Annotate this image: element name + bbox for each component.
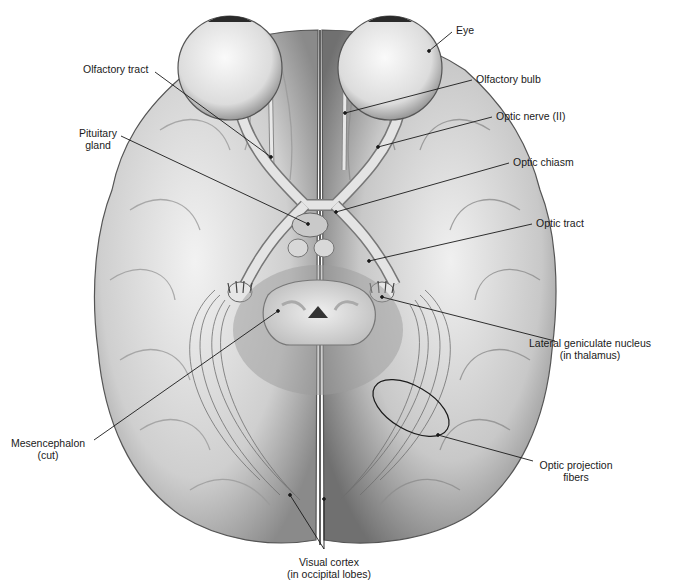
label-optic-chiasm: Optic chiasm — [513, 156, 574, 168]
label-eye: Eye — [456, 24, 474, 36]
leader-dot-olfactory_bulb — [344, 112, 347, 115]
label-optic-projection-line1: Optic projection — [516, 459, 636, 471]
leader-dot-eye — [428, 50, 431, 53]
label-pituitary-line1: Pituitary — [68, 127, 128, 139]
label-lateral-geniculate: Lateral geniculate nucleus (in thalamus) — [490, 337, 684, 361]
label-lateral-geniculate-line2: (in thalamus) — [490, 349, 684, 361]
label-optic-projection-line2: fibers — [516, 471, 636, 483]
left-eye — [178, 16, 282, 120]
label-olfactory-tract: Olfactory tract — [83, 63, 148, 75]
label-lateral-geniculate-line1: Lateral geniculate nucleus — [490, 337, 684, 349]
label-mesencephalon-line1: Mesencephalon — [0, 437, 96, 449]
right-eye — [338, 16, 442, 120]
label-mesencephalon: Mesencephalon (cut) — [0, 437, 96, 461]
leader-dot-optic_tract — [368, 260, 371, 263]
leader-dot-optic_projection_line2 — [437, 434, 440, 437]
leader-dot-lateral_geniculate_line2 — [381, 296, 384, 299]
leader-dot-olfactory_tract — [270, 156, 273, 159]
label-pituitary-gland: Pituitary gland — [68, 127, 128, 151]
brain-visual-pathway-diagram — [0, 0, 684, 588]
leader-dot-pituitary_line2 — [307, 223, 310, 226]
label-optic-tract: Optic tract — [536, 217, 584, 229]
leader-dot-optic_nerve — [377, 146, 380, 149]
leader-dot-mesencephalon_line2 — [277, 310, 280, 313]
label-visual-cortex-line1: Visual cortex — [259, 556, 399, 568]
mesencephalon-cut — [233, 265, 403, 395]
pituitary-gland — [292, 213, 328, 237]
label-mesencephalon-line2: (cut) — [0, 449, 96, 461]
label-pituitary-line2: gland — [68, 139, 128, 151]
label-visual-cortex-line2: (in occipital lobes) — [259, 568, 399, 580]
leader-dot-optic_chiasm — [335, 211, 338, 214]
leader-dot-visual_cortex_line2 — [323, 498, 326, 501]
label-optic-nerve: Optic nerve (II) — [496, 110, 565, 122]
label-olfactory-bulb: Olfactory bulb — [476, 73, 541, 85]
label-optic-projection-fibers: Optic projection fibers — [516, 459, 636, 483]
label-visual-cortex: Visual cortex (in occipital lobes) — [259, 556, 399, 580]
leader-dot-visual_cortex_line2 — [289, 494, 292, 497]
